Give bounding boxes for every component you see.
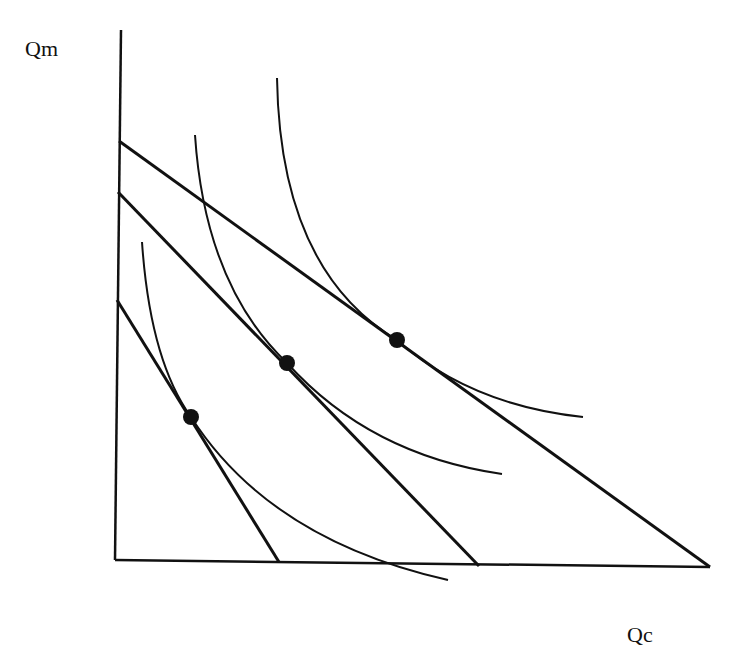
tangency-point-3 — [389, 332, 405, 348]
tangency-point-1 — [183, 409, 199, 425]
indifference-curve-3 — [277, 78, 583, 417]
x-axis — [115, 560, 710, 567]
indifference-diagram — [0, 0, 739, 670]
budget-line-2 — [118, 192, 479, 566]
budget-line-1 — [117, 300, 279, 562]
y-axis — [115, 30, 121, 560]
tangency-point-2 — [279, 355, 295, 371]
indifference-curve-2 — [195, 135, 502, 474]
